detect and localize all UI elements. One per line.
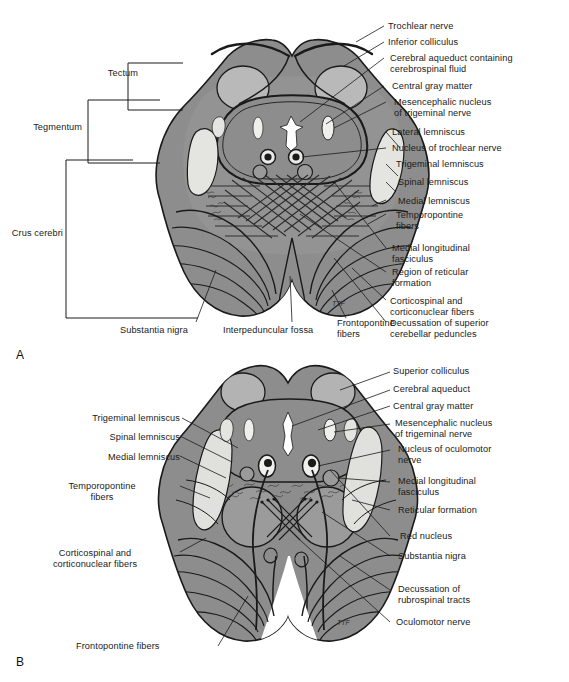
midbrain-figure: A Tectum Tegmentum Crus cerebri Trochlea…: [0, 0, 569, 682]
label-a-mlf: Medial longitudinal fasciculus: [392, 243, 470, 264]
label-a-mesencephalic-nucleus: Mesencephalic nucleus of trigeminal nerv…: [394, 97, 491, 118]
label-a-decussation-scp: Decussation of superior cerebellar pedun…: [390, 318, 489, 339]
label-a-central-gray-matter: Central gray matter: [392, 81, 472, 92]
artist-signature-b: TTF: [337, 619, 350, 626]
label-b-trigeminal-lemniscus: Trigeminal lemniscus: [52, 413, 180, 424]
label-b-cerebral-aqueduct: Cerebral aqueduct: [393, 384, 470, 395]
label-b-medial-lemniscus: Medial lemniscus: [52, 452, 180, 463]
label-b-decussation-rubrospinal: Decussation of rubrospinal tracts: [398, 584, 470, 605]
label-a-inferior-colliculus: Inferior colliculus: [388, 37, 458, 48]
label-b-central-gray-matter: Central gray matter: [393, 401, 473, 412]
label-b-temporopontine-fibers: Temporopontine fibers: [24, 481, 180, 502]
label-b-nucleus-oculomotor-nerve: Nucleus of oculomotor nerve: [398, 444, 491, 465]
label-a-trochlear-nerve: Trochlear nerve: [388, 21, 453, 32]
label-b-corticospinal-corticonuclear: Corticospinal and corticonuclear fibers: [10, 548, 180, 569]
label-b-oculomotor-nerve: Oculomotor nerve: [396, 617, 471, 628]
label-a-medial-lemniscus: Medial lemniscus: [398, 196, 470, 207]
label-a-temporopontine-fibers: Temporopontine fibers: [396, 210, 463, 231]
label-b-red-nucleus: Red nucleus: [400, 531, 452, 542]
panel-b-section: [159, 366, 418, 648]
label-a-spinal-lemniscus: Spinal lemniscus: [398, 177, 468, 188]
label-b-substantia-nigra: Substantia nigra: [398, 551, 466, 562]
label-b-mesencephalic-nucleus: Mesencephalic nucleus of trigeminal nerv…: [395, 418, 492, 439]
label-a-cerebral-aqueduct: Cerebral aqueduct containing cerebrospin…: [390, 53, 513, 74]
label-b-frontopontine-fibers: Frontopontine fibers: [76, 641, 160, 652]
label-b-reticular-formation: Reticular formation: [398, 505, 477, 516]
label-a-corticospinal-corticonuclear: Corticospinal and corticonuclear fibers: [390, 296, 474, 317]
label-a-reticular-formation: Region of reticular formation: [392, 267, 468, 288]
label-a-frontopontine-fibers: Frontopontine fibers: [337, 318, 395, 339]
label-b-mlf: Medial longitudinal fasciculus: [398, 476, 476, 497]
bracket-label-crus-cerebri: Crus cerebri: [8, 228, 63, 239]
label-a-trigeminal-lemniscus: Trigeminal lemniscus: [396, 159, 484, 170]
label-b-spinal-lemniscus: Spinal lemniscus: [52, 432, 180, 443]
label-a-interpeduncular-fossa: Interpeduncular fossa: [223, 325, 313, 336]
label-a-nucleus-trochlear-nerve: Nucleus of trochlear nerve: [392, 143, 502, 154]
artist-signature-a: TTF: [332, 300, 345, 307]
bracket-label-tegmentum: Tegmentum: [14, 122, 82, 133]
panel-a-letter: A: [16, 348, 24, 362]
label-a-substantia-nigra: Substantia nigra: [120, 325, 188, 336]
bracket-label-tectum: Tectum: [60, 68, 138, 79]
label-b-superior-colliculus: Superior colliculus: [393, 366, 469, 377]
panel-b-letter: B: [16, 655, 24, 669]
label-a-lateral-lemniscus: Lateral lemniscus: [392, 127, 465, 138]
